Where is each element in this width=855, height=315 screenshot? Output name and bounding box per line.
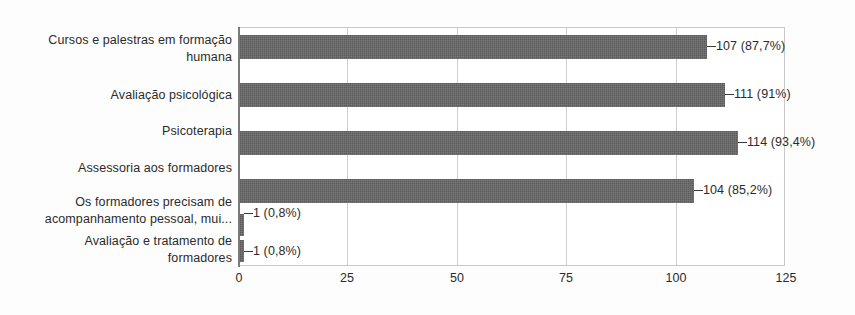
bar-avaliacao-psicologica[interactable] xyxy=(239,83,725,107)
leader-line xyxy=(725,94,734,95)
category-label-psicoterapia: Psicoterapia xyxy=(12,123,232,140)
data-label-cursos-e-palestras: 107 (87,7%) xyxy=(716,40,785,53)
category-label-line: humana xyxy=(12,49,232,66)
x-tick-125: 125 xyxy=(775,272,796,285)
x-tick-25: 25 xyxy=(340,272,354,285)
data-label-avaliacao-psicologica: 111 (91%) xyxy=(734,88,791,101)
category-label-line: Avaliação e tratamento de xyxy=(12,233,232,250)
x-tick-75: 75 xyxy=(559,272,573,285)
category-label-line: formadores xyxy=(12,250,232,267)
plot-area xyxy=(238,27,785,266)
y-axis-line xyxy=(238,27,240,267)
category-label-line: Os formadores precisam de xyxy=(12,194,232,211)
data-label-avaliacao-e-tratamento: 1 (0,8%) xyxy=(253,245,301,258)
data-label-os-formadores-precisam: 1 (0,8%) xyxy=(253,207,301,220)
bar-psicoterapia[interactable] xyxy=(239,131,738,155)
data-label-assessoria-aos-formadores: 104 (85,2%) xyxy=(703,184,772,197)
category-label-avaliacao-psicologica: Avaliação psicológica xyxy=(12,87,232,104)
category-label-line: Cursos e palestras em formação xyxy=(12,32,232,49)
x-tick-100: 100 xyxy=(665,272,686,285)
leader-line xyxy=(694,190,703,191)
bar-assessoria-aos-formadores[interactable] xyxy=(239,179,694,203)
x-tick-50: 50 xyxy=(450,272,464,285)
category-label-assessoria-aos-formadores: Assessoria aos formadores xyxy=(12,160,232,177)
horizontal-bar-chart: 107 (87,7%) 111 (91%) 114 (93,4%) 104 (8… xyxy=(0,0,855,315)
category-label-line: Assessoria aos formadores xyxy=(12,160,232,177)
category-label-line: Avaliação psicológica xyxy=(12,87,232,104)
leader-line xyxy=(244,251,253,252)
category-label-cursos-e-palestras: Cursos e palestras em formação humana xyxy=(12,32,232,66)
leader-line xyxy=(244,213,253,214)
category-label-line: Psicoterapia xyxy=(12,123,232,140)
bar-cursos-e-palestras[interactable] xyxy=(239,35,707,59)
x-tick-0: 0 xyxy=(235,272,242,285)
category-label-os-formadores-precisam: Os formadores precisam de acompanhamento… xyxy=(12,194,232,228)
category-label-line: acompanhamento pessoal, mui... xyxy=(12,211,232,228)
leader-line xyxy=(738,142,747,143)
leader-line xyxy=(707,46,716,47)
category-label-avaliacao-e-tratamento: Avaliação e tratamento de formadores xyxy=(12,233,232,267)
data-label-psicoterapia: 114 (93,4%) xyxy=(747,136,815,149)
